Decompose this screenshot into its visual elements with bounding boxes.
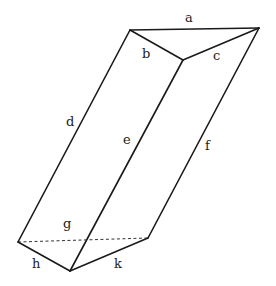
edge-b bbox=[130, 30, 183, 60]
label-f: f bbox=[205, 138, 211, 153]
edge-c bbox=[183, 28, 259, 60]
label-e: e bbox=[123, 132, 131, 147]
label-g: g bbox=[63, 216, 71, 231]
label-a: a bbox=[185, 10, 193, 25]
prism-diagram: a b c d e f g h k bbox=[0, 0, 276, 286]
edge-e bbox=[70, 60, 183, 271]
edge-g-hidden bbox=[18, 238, 148, 242]
label-c: c bbox=[213, 48, 220, 63]
edge-d bbox=[18, 30, 130, 242]
edge-k bbox=[70, 238, 148, 271]
label-d: d bbox=[66, 114, 74, 129]
label-b: b bbox=[142, 46, 150, 61]
label-k: k bbox=[114, 256, 122, 271]
edge-h bbox=[18, 242, 70, 271]
edge-a bbox=[130, 28, 259, 30]
edge-f bbox=[148, 28, 259, 238]
label-h: h bbox=[32, 256, 41, 271]
